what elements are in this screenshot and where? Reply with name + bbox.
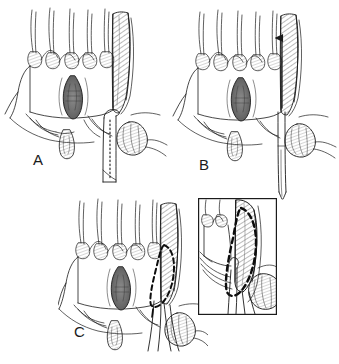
inset-drawing	[198, 198, 277, 315]
left-fold	[10, 66, 30, 118]
villous-projections	[28, 8, 114, 69]
instrument-shaft	[278, 112, 286, 199]
instrument-shaft	[103, 109, 119, 182]
panel-label-a: A	[33, 152, 44, 167]
hatched-band	[280, 14, 298, 115]
panel-c: C	[58, 193, 208, 353]
panel-a: A	[0, 0, 170, 190]
central-lesion	[63, 76, 82, 119]
hatched-band	[160, 203, 178, 304]
panel-label-b: B	[199, 157, 210, 172]
villous-projections	[196, 10, 282, 71]
panel-label-c: C	[74, 324, 85, 339]
panel-a-drawing	[0, 0, 170, 190]
panel-b: B	[168, 0, 339, 200]
pendant-lobule	[59, 130, 74, 159]
left-fold	[178, 68, 198, 120]
hatched-band	[112, 12, 130, 113]
figure-root: A	[0, 0, 339, 364]
pendant-lobule	[227, 132, 242, 161]
central-lesion	[231, 78, 250, 121]
pendant-lobule	[107, 321, 122, 350]
panel-b-drawing	[168, 0, 339, 200]
central-lesion	[111, 267, 130, 310]
rounded-nodule	[285, 124, 316, 157]
rounded-nodule	[117, 122, 148, 155]
villous-projections	[76, 199, 162, 260]
caption-remnant	[0, 356, 339, 364]
resection-tail	[152, 309, 153, 317]
left-fold	[59, 257, 78, 309]
inset-box	[198, 198, 277, 315]
